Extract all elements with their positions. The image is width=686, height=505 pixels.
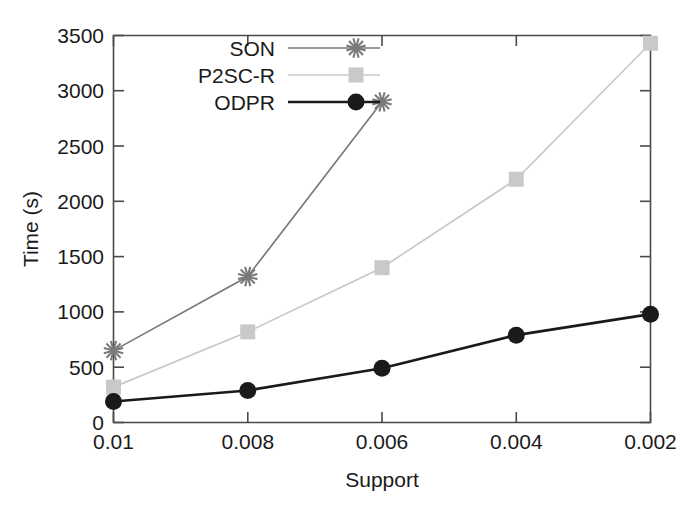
chart-figure: 3500 3000 2500 2000 1500 1000 500 0 0.01…	[0, 0, 686, 505]
circle-marker	[348, 94, 365, 111]
square-marker	[643, 36, 658, 51]
y-tick-label: 500	[69, 356, 104, 379]
y-axis-title: Time (s)	[19, 191, 42, 267]
y-tick-label: 3000	[57, 79, 104, 102]
y-tick-label: 3500	[57, 24, 104, 47]
y-tick-label: 1500	[57, 245, 104, 268]
x-tick-label: 0.004	[490, 430, 543, 453]
legend-label-p2scr: P2SC-R	[198, 64, 275, 87]
square-marker	[375, 260, 390, 275]
x-tick-label: 0.006	[356, 430, 409, 453]
legend-label-son: SON	[229, 37, 275, 60]
line-chart: 3500 3000 2500 2000 1500 1000 500 0 0.01…	[0, 0, 686, 505]
circle-marker	[105, 393, 122, 410]
y-tick-label: 1000	[57, 300, 104, 323]
square-marker	[349, 68, 364, 83]
circle-marker	[508, 327, 525, 344]
circle-marker	[642, 306, 659, 323]
x-tick-label: 0.008	[222, 430, 275, 453]
x-axis-title: Support	[345, 468, 419, 491]
square-marker	[509, 172, 524, 187]
y-tick-label: 2000	[57, 190, 104, 213]
square-marker	[106, 380, 121, 395]
y-tick-label: 2500	[57, 135, 104, 158]
x-tick-label: 0.002	[624, 430, 677, 453]
square-marker	[240, 324, 255, 339]
legend-label-odpr: ODPR	[214, 91, 275, 114]
circle-marker	[374, 360, 391, 377]
circle-marker	[239, 382, 256, 399]
x-tick-label: 0.01	[93, 430, 134, 453]
